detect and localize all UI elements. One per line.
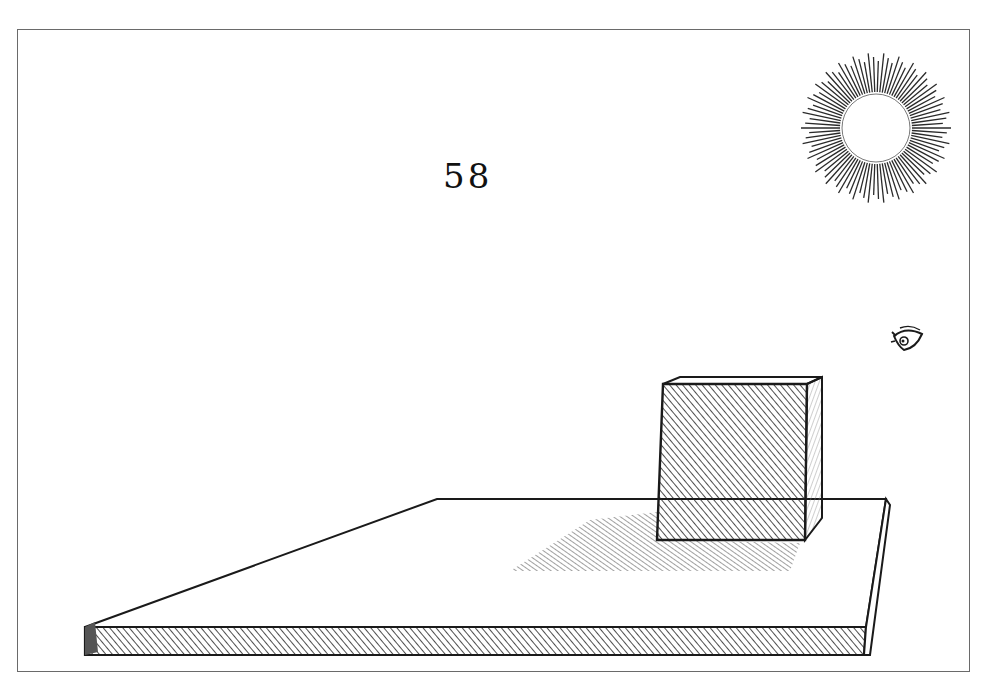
eye-icon (891, 326, 922, 350)
figure-number: 58 (443, 156, 492, 196)
woodcut-illustration (0, 0, 983, 693)
sun-icon (801, 53, 951, 202)
cube-icon (657, 377, 822, 540)
